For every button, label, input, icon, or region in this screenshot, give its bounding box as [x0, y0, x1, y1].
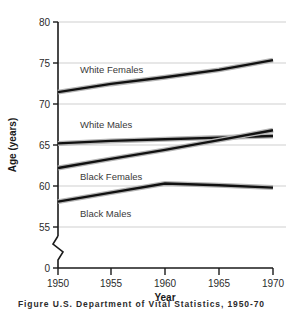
- ytick-label-75: 75: [39, 58, 51, 69]
- ytick-label-0: 0: [44, 263, 50, 274]
- xtick-label-1965: 1965: [208, 278, 231, 289]
- series-label-black-females: Black Females: [80, 171, 143, 182]
- series-black-females: [58, 130, 273, 168]
- ytick-label-60: 60: [39, 181, 51, 192]
- figure-caption: Figure U.S. Department of Vital Statisti…: [18, 299, 298, 309]
- ytick-label-55: 55: [39, 222, 51, 233]
- ytick-label-80: 80: [39, 17, 51, 28]
- xtick-label-1960: 1960: [154, 278, 177, 289]
- series-label-white-males: White Males: [80, 119, 133, 130]
- black-females-line: [58, 130, 273, 168]
- xtick-label-1955: 1955: [100, 278, 123, 289]
- ytick-label-70: 70: [39, 99, 51, 110]
- xtick-label-1950: 1950: [47, 278, 70, 289]
- y-axis-break-symbol: [53, 236, 63, 268]
- xtick-label-1970: 1970: [262, 278, 285, 289]
- ytick-label-65: 65: [39, 140, 51, 151]
- series-label-black-males: Black Males: [80, 208, 131, 219]
- x-axis: [58, 268, 273, 275]
- series-label-white-females: White Females: [80, 64, 144, 75]
- y-axis-title: Age (years): [7, 118, 18, 172]
